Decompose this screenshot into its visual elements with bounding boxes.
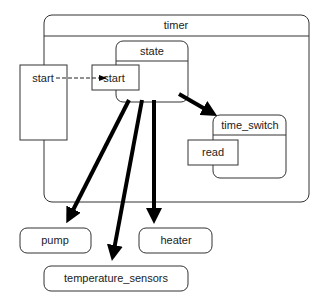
arrow-to-pump	[69, 100, 129, 218]
inner-start-label: start	[103, 72, 124, 84]
heater-state[interactable]: heater	[139, 228, 212, 253]
state-label: state	[140, 45, 164, 57]
statechart-diagram: timer state start start time_switch read…	[0, 0, 323, 305]
pump-state[interactable]: pump	[20, 228, 91, 253]
temperature-sensors-label: temperature_sensors	[64, 272, 168, 284]
heater-label: heater	[160, 234, 192, 246]
temperature-sensors-state[interactable]: temperature_sensors	[44, 266, 188, 291]
outer-start-port[interactable]: start	[20, 65, 67, 140]
pump-label: pump	[41, 234, 69, 246]
time-switch-label: time_switch	[221, 119, 278, 131]
read-label: read	[202, 146, 224, 158]
timer-label: timer	[164, 19, 189, 31]
read-port[interactable]: read	[188, 140, 238, 165]
arrow-to-time-switch	[179, 94, 212, 113]
outer-start-label: start	[32, 72, 53, 84]
